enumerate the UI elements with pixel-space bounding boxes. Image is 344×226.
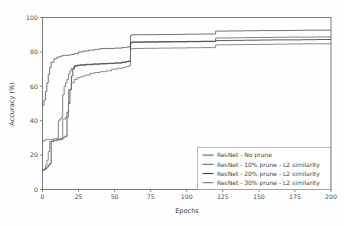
x-tick-label: 175 [289, 193, 301, 200]
chart-figure: 0255075100125150175200020406080100 Epoch… [0, 0, 344, 226]
y-axis-title: Accuracy (%) [8, 82, 16, 126]
x-tick-label: 75 [147, 193, 155, 200]
x-tick-label: 0 [41, 193, 45, 200]
x-tick-label: 100 [181, 193, 193, 200]
x-tick-label: 50 [111, 193, 119, 200]
legend-label-3[interactable]: ResNet - 30% prune - L2 similarity [217, 179, 320, 187]
x-tick-label: 150 [253, 193, 265, 200]
y-tick-label: 100 [26, 14, 38, 21]
x-tick-label: 200 [325, 193, 337, 200]
x-tick-label: 25 [75, 193, 83, 200]
y-tick-label: 40 [30, 117, 38, 124]
y-tick-label: 0 [34, 186, 38, 193]
legend-label-0[interactable]: ResNet - No prune [217, 151, 272, 159]
y-tick-label: 20 [30, 151, 38, 158]
y-tick-label: 60 [30, 83, 38, 90]
x-axis-title: Epochs [175, 207, 199, 215]
x-tick-label: 125 [217, 193, 229, 200]
y-tick-label: 80 [30, 48, 38, 55]
accuracy-vs-epochs-line-chart: 0255075100125150175200020406080100 Epoch… [0, 0, 344, 226]
legend-label-1[interactable]: ResNet - 10% prune - L2 similarity [217, 161, 320, 169]
legend-label-2[interactable]: ResNet - 20% prune - L2 similarity [217, 170, 320, 178]
chart-legend[interactable]: ResNet - No pruneResNet - 10% prune - L2… [198, 148, 331, 190]
